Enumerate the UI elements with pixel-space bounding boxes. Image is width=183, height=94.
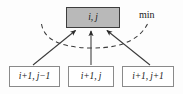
node-i-j-label: i, j [88,13,98,23]
node-i1-jminus1: i+1, j−1 [9,66,60,87]
edge-left [33,31,76,66]
node-i1-j: i+1, j [68,66,114,87]
edge-right [107,31,150,66]
transition-diagram-figure: i, j i+1, j−1 i+1, j i+1, j+1 min [0,0,183,94]
node-i1-jplus1-label: i+1, j+1 [132,72,164,82]
node-i1-jplus1: i+1, j+1 [122,66,174,87]
min-label: min [139,10,155,20]
node-i1-jminus1-label: i+1, j−1 [19,72,51,82]
node-i1-j-label: i+1, j [81,72,102,82]
node-i-j: i, j [66,7,120,28]
